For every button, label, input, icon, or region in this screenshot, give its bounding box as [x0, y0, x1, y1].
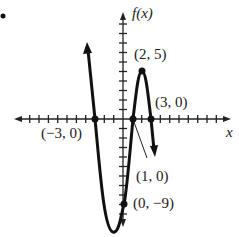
label-0-neg9: (0, −9): [133, 196, 174, 211]
bullet-dot: [1, 14, 6, 19]
graph: [0, 0, 239, 237]
curve-arrow-left-icon: [83, 42, 92, 54]
label-neg3-0: (−3, 0): [41, 126, 82, 141]
label-1-0: (1, 0): [136, 169, 169, 184]
y-axis-label: f(x): [132, 6, 153, 21]
point-3-0: [148, 116, 155, 123]
label-2-5: (2, 5): [134, 47, 167, 62]
curve-arrow-right-icon: [150, 145, 158, 157]
point-1-0: [130, 116, 137, 123]
point-neg3-0: [92, 116, 99, 123]
point-0-neg9: [121, 201, 128, 208]
x-axis-label: x: [226, 125, 233, 140]
point-2-5: [139, 68, 146, 75]
label-3-0: (3, 0): [155, 95, 188, 110]
leader-line: [134, 122, 147, 158]
